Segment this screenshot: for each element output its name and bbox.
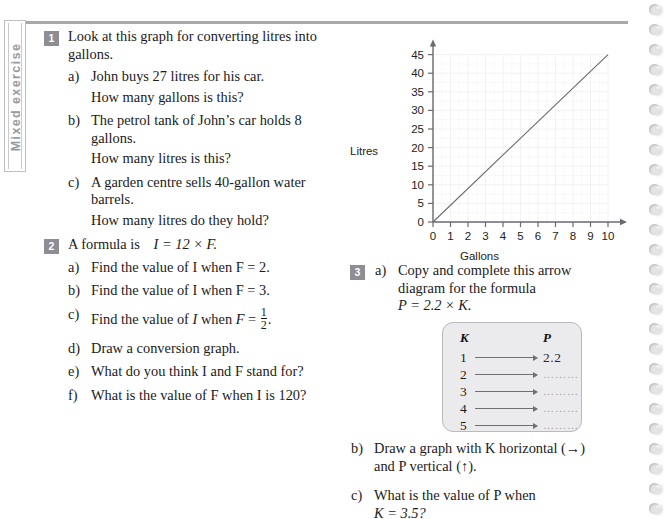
question-2-stem: A formula is I = 12 × F. [68,236,344,254]
graph-y-tick-label: 45 [411,49,424,61]
graph-canvas: 051015202530354045012345678910 [350,24,632,264]
spiral-ring [649,383,660,394]
graph-y-tick-label: 40 [411,67,424,79]
graph-x-axis-arrowhead [620,219,627,225]
question-2-part-d-text: Draw a conversion graph. [91,340,240,356]
question-2-part-d: d) Draw a conversion graph. [68,340,344,358]
arrow-diagram-box: K P 12.22………3………4………5……… [442,322,582,432]
question-2-part-a-text: Find the value of I when F = 2. [91,259,270,275]
graph-y-tick-label: 25 [411,123,424,135]
graph-y-tick-label: 30 [411,104,424,116]
spiral-ring [649,343,660,354]
question-2-part-f: f) What is the value of F when I is 120? [68,387,344,405]
spiral-ring [649,403,660,414]
spiral-ring [649,204,660,215]
question-3-part-b: b) Draw a graph with K horizontal (→) an… [374,440,632,475]
question-1-stem: Look at this graph for converting litres… [68,28,344,63]
graph-y-axis-arrowhead [430,40,436,47]
textbook-page: Mixed exercise 1 Look at this graph for … [0,0,668,519]
graph-x-axis-label: Gallons [460,250,499,262]
spiral-ring [649,104,660,115]
question-1-number-badge: 1 [44,31,59,46]
spiral-ring [649,84,660,95]
part-label-a: a) [375,262,386,280]
spiral-ring [649,323,660,334]
graph-x-tick-label: 5 [517,230,523,242]
graph-y-tick-label: 15 [411,160,424,172]
question-2-part-e-text: What do you think I and F stand for? [91,363,304,379]
spiral-ring [649,24,660,35]
arrow-diagram-p-blank: ……… [543,366,579,383]
spiral-ring [649,443,660,454]
arrow-diagram-row: 2……… [443,366,583,383]
arrow-diagram-k-value: 1 [460,349,467,366]
spiral-ring [649,164,660,175]
question-1-part-b: b) The petrol tank of John’s car holds 8… [68,112,344,168]
arrow-right-icon [475,425,537,426]
question-3-part-c-line2: K = 3.5? [374,505,426,519]
part-label-c: c) [68,174,79,192]
arrow-diagram-p-value: 2.2 [543,349,561,366]
spiral-ring [649,4,660,15]
part-label-d: d) [68,340,80,358]
question-2-number-badge: 2 [44,239,59,254]
question-3-part-a: a) Copy and complete this arrow diagram … [398,262,656,315]
question-2-part-c-text-post: . [268,311,272,327]
graph-y-tick-label: 5 [418,197,424,209]
question-3-part-a-line2: diagram for the formula [398,280,536,296]
question-2-part-b: b) Find the value of I when F = 3. [68,282,344,300]
left-column: 1 Look at this graph for converting litr… [44,28,344,411]
question-2-stem-prefix: A formula is [68,236,140,252]
arrow-diagram-row: 4……… [443,400,583,417]
arrow-right-icon [475,357,537,358]
graph-x-tick-label: 8 [570,230,576,242]
spiral-ring [649,184,660,195]
question-1-part-a-sub: How many gallons is this? [91,89,344,107]
spiral-ring [649,124,660,135]
arrow-diagram-k-value: 3 [460,383,467,400]
arrow-diagram-row: 3……… [443,383,583,400]
arrow-right-icon [475,391,537,392]
spiral-ring [649,144,660,155]
graph-y-axis-label: Litres [350,145,378,157]
question-3-part-a-line1: Copy and complete this arrow [398,262,571,278]
question-1-part-a: a) John buys 27 litres for his car. How … [68,68,344,106]
question-3-part-a-formula: P = 2.2 × K. [398,297,472,313]
arrow-right-icon [475,374,537,375]
graph-y-tick-label: 35 [411,86,424,98]
graph-x-tick-label: 4 [500,230,507,242]
question-1-part-b-sub: How many litres is this? [91,150,344,168]
question-2-part-a: a) Find the value of I when F = 2. [68,259,344,277]
question-3-part-c: c) What is the value of P when K = 3.5? [374,487,632,519]
graph-x-tick-label: 0 [430,230,436,242]
question-1-part-c-sub: How many litres do they hold? [91,212,344,230]
chapter-side-tab-label: Mixed exercise [5,21,27,173]
arrow-diagram-p-blank: ……… [543,400,579,417]
question-3-number-badge: 3 [350,265,365,280]
graph-y-tick-label: 0 [418,216,424,228]
arrow-diagram-k-value: 2 [460,366,467,383]
spiral-ring [649,483,660,494]
question-3-part-c-line1: What is the value of P when [374,487,536,503]
part-label-a: a) [68,259,79,277]
part-label-b: b) [68,112,80,130]
question-2-part-e: e) What do you think I and F stand for? [68,363,344,381]
spiral-ring [649,503,660,514]
arrow-diagram-header-p: P [543,330,551,346]
question-1-part-c-text: A garden centre sells 40-gallon water ba… [91,174,306,208]
question-2-stem-formula: I = 12 × F. [154,236,218,252]
right-column: 3 a) Copy and complete this arrow diagra… [350,262,632,519]
graph-y-tick-label: 20 [411,142,424,154]
spiral-ring [649,463,660,474]
graph-x-tick-label: 9 [587,230,593,242]
arrow-diagram-k-value: 4 [460,400,467,417]
fraction-denominator: 2 [261,318,267,331]
question-1: 1 Look at this graph for converting litr… [44,28,344,229]
part-label-f: f) [68,387,78,405]
question-2-part-c-text-pre: Find the value of [91,311,193,327]
part-label-c: c) [68,306,79,324]
graph-x-tick-label: 1 [447,230,453,242]
graph-x-tick-label: 2 [465,230,471,242]
part-label-e: e) [68,363,79,381]
question-3: 3 a) Copy and complete this arrow diagra… [350,262,632,512]
